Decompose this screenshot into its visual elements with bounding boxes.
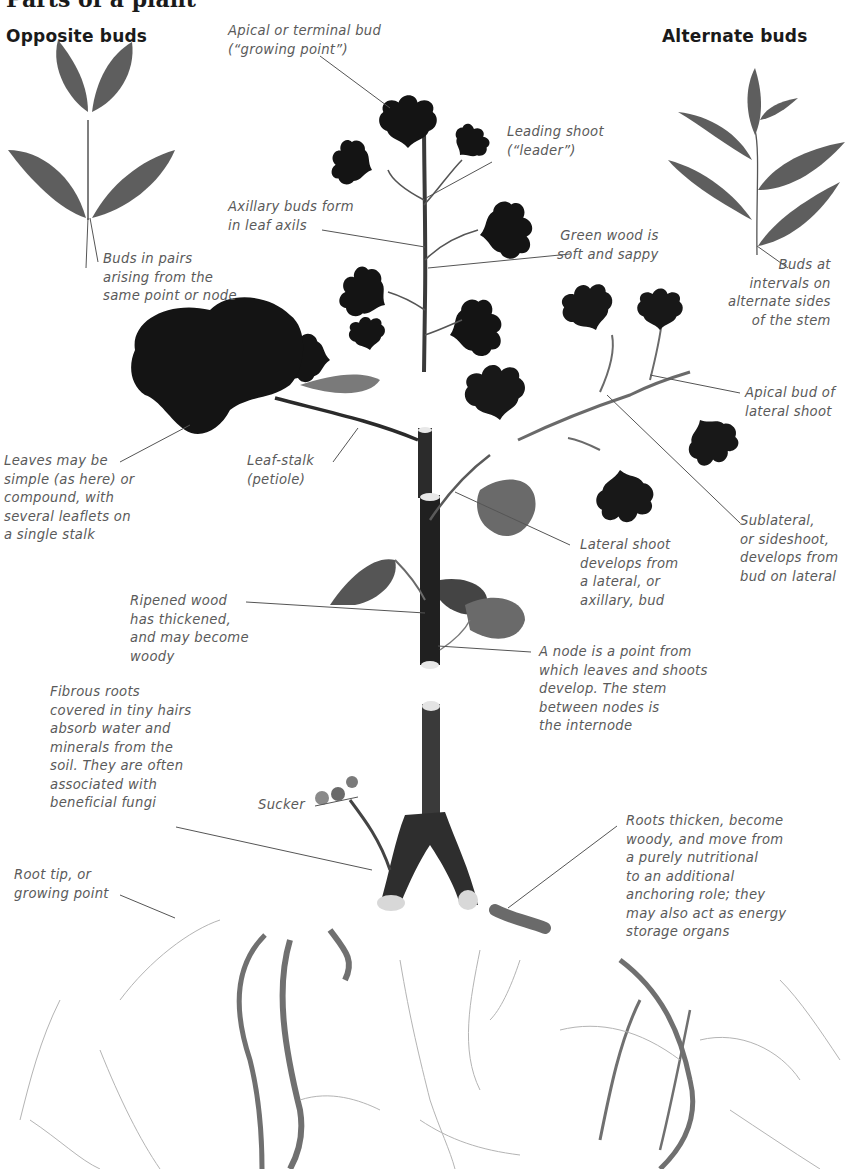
main-stem-icon <box>418 120 440 814</box>
label-leaves-simple-compound: Leaves may be simple (as here) or compou… <box>4 452 135 545</box>
label-apical-bud-lateral: Apical bud of lateral shoot <box>745 384 835 421</box>
label-roots-thicken: Roots thicken, become woody, and move fr… <box>626 812 786 942</box>
label-root-tip: Root tip, or growing point <box>14 866 109 903</box>
label-green-wood: Green wood is soft and sappy <box>557 227 659 264</box>
apical-leaves-icon <box>284 95 537 384</box>
label-leaf-stalk: Leaf-stalk (petiole) <box>247 452 314 489</box>
label-lateral-shoot: Lateral shoot develops from a lateral, o… <box>580 536 678 610</box>
label-buds-at-intervals: Buds at intervals on alternate sides of … <box>728 256 831 330</box>
label-node: A node is a point from which leaves and … <box>539 643 708 736</box>
label-apical-bud: Apical or terminal bud (“growing point”) <box>228 22 381 59</box>
sucker-icon <box>315 776 390 870</box>
label-ripened-wood: Ripened wood has thickened, and may beco… <box>130 592 249 666</box>
root-crown-icon <box>377 812 545 928</box>
label-leading-shoot: Leading shoot (“leader”) <box>507 123 604 160</box>
alternate-buds-sprig-icon <box>668 68 845 268</box>
opposite-buds-sprig-icon <box>8 40 175 268</box>
label-fibrous-roots: Fibrous roots covered in tiny hairs abso… <box>50 683 191 813</box>
label-sublateral: Sublateral, or sideshoot, develops from … <box>740 512 838 586</box>
plant-illustration <box>0 0 852 1169</box>
label-axillary-buds: Axillary buds form in leaf axils <box>228 198 354 235</box>
label-buds-in-pairs: Buds in pairs arising from the same poin… <box>103 250 237 306</box>
label-sucker: Sucker <box>258 796 305 815</box>
roots-icon <box>20 920 840 1169</box>
